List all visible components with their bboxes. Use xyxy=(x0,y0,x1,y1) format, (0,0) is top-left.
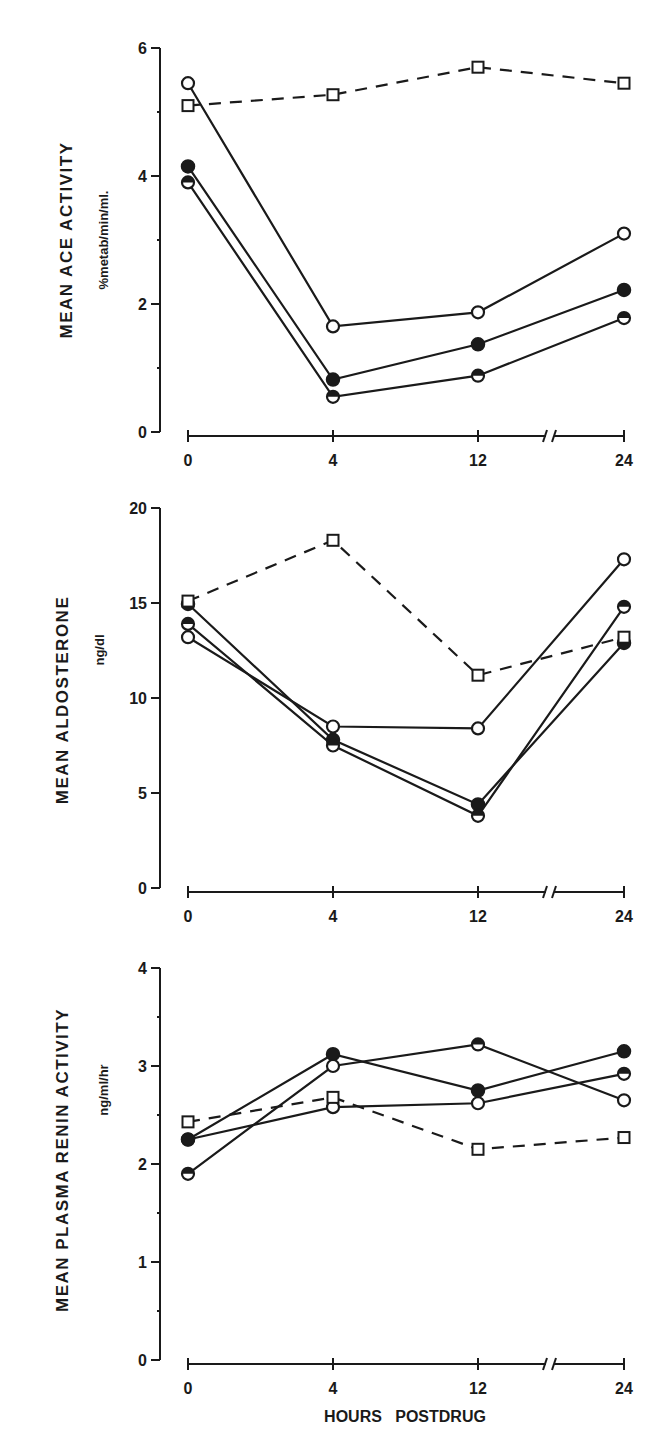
open-circle-marker xyxy=(182,631,194,643)
series-open-square xyxy=(183,1092,630,1155)
open-circle-marker xyxy=(327,320,339,332)
x-tick-label: 24 xyxy=(615,908,633,925)
x-tick-label: 0 xyxy=(184,452,193,469)
y-tick-label: 0 xyxy=(138,880,147,897)
open-square-marker xyxy=(473,1144,484,1155)
filled-circle-marker xyxy=(472,338,485,351)
filled-circle-marker xyxy=(618,1045,631,1058)
y-tick-label: 2 xyxy=(138,1156,147,1173)
series-line xyxy=(188,166,624,379)
series-line xyxy=(188,1074,624,1140)
y-axis-unit: ng/ml/hr xyxy=(96,1064,111,1115)
x-tick-label: 4 xyxy=(329,1380,338,1397)
chart-canvas: 0246041224MEAN ACE ACTIVITY%metab/min/ml… xyxy=(0,0,662,1455)
y-tick-label: 20 xyxy=(129,500,147,517)
open-square-marker xyxy=(183,596,194,607)
x-tick-label: 0 xyxy=(184,1380,193,1397)
x-tick-label: 4 xyxy=(329,452,338,469)
panel-3: 01234041224MEAN PLASMA RENIN ACTIVITYng/… xyxy=(53,960,633,1397)
open-square-marker xyxy=(619,1132,630,1143)
open-square-marker xyxy=(473,62,484,73)
open-circle-marker xyxy=(618,1094,630,1106)
series-line xyxy=(188,540,624,675)
panel-2: 05101520041224MEAN ALDOSTERONEng/dl xyxy=(53,500,633,925)
x-tick-label: 0 xyxy=(184,908,193,925)
y-tick-label: 5 xyxy=(138,785,147,802)
series-open-square xyxy=(183,535,630,681)
open-square-marker xyxy=(473,670,484,681)
open-square-marker xyxy=(619,632,630,643)
open-circle-marker xyxy=(472,306,484,318)
open-square-marker xyxy=(328,1092,339,1103)
filled-circle-marker xyxy=(327,1048,340,1061)
series-open-circle xyxy=(182,77,630,332)
y-tick-label: 0 xyxy=(138,1352,147,1369)
series-half-filled-circle xyxy=(182,176,630,402)
open-circle-marker xyxy=(618,228,630,240)
y-tick-label: 10 xyxy=(129,690,147,707)
y-tick-label: 6 xyxy=(138,40,147,57)
y-tick-label: 2 xyxy=(138,296,147,313)
series-line xyxy=(188,607,624,816)
filled-circle-marker xyxy=(327,373,340,386)
y-axis-label: MEAN PLASMA RENIN ACTIVITY xyxy=(53,1008,72,1312)
open-square-marker xyxy=(328,89,339,100)
filled-circle-marker xyxy=(182,1133,195,1146)
series-line xyxy=(188,67,624,105)
y-axis-label: MEAN ALDOSTERONE xyxy=(53,596,72,805)
y-tick-label: 3 xyxy=(138,1058,147,1075)
open-circle-marker xyxy=(327,1060,339,1072)
filled-circle-marker xyxy=(618,283,631,296)
open-circle-marker xyxy=(182,77,194,89)
y-tick-label: 4 xyxy=(138,960,147,977)
y-tick-label: 4 xyxy=(138,168,147,185)
y-axis-unit: ng/dl xyxy=(92,634,107,665)
panel-1: 0246041224MEAN ACE ACTIVITY%metab/min/ml… xyxy=(57,40,633,469)
open-circle-marker xyxy=(472,722,484,734)
open-square-marker xyxy=(328,535,339,546)
series-half-filled-circle xyxy=(182,1038,630,1179)
y-tick-label: 15 xyxy=(129,595,147,612)
series-line xyxy=(188,1044,624,1173)
y-axis-label: MEAN ACE ACTIVITY xyxy=(57,141,76,338)
open-square-marker xyxy=(183,1116,194,1127)
y-axis-unit: %metab/min/ml. xyxy=(96,191,111,290)
open-square-marker xyxy=(183,100,194,111)
series-line xyxy=(188,182,624,396)
open-circle-marker xyxy=(327,721,339,733)
series-line xyxy=(188,83,624,326)
x-tick-label: 24 xyxy=(615,1380,633,1397)
x-tick-label: 4 xyxy=(329,908,338,925)
x-tick-label: 12 xyxy=(469,908,487,925)
filled-circle-marker xyxy=(472,1084,485,1097)
figure: 0246041224MEAN ACE ACTIVITY%metab/min/ml… xyxy=(0,0,662,1455)
x-axis-label: HOURS POSTDRUG xyxy=(324,1408,486,1425)
x-tick-label: 12 xyxy=(469,1380,487,1397)
series-open-circle xyxy=(182,1068,630,1146)
series-filled-circle xyxy=(182,1045,631,1146)
series-open-circle xyxy=(182,553,630,734)
series-open-square xyxy=(183,62,630,111)
y-tick-label: 1 xyxy=(138,1254,147,1271)
filled-circle-marker xyxy=(182,160,195,173)
series-line xyxy=(188,559,624,728)
x-tick-label: 12 xyxy=(469,452,487,469)
open-square-marker xyxy=(619,78,630,89)
y-tick-label: 0 xyxy=(138,424,147,441)
open-circle-marker xyxy=(472,1097,484,1109)
open-circle-marker xyxy=(618,553,630,565)
x-tick-label: 24 xyxy=(615,452,633,469)
